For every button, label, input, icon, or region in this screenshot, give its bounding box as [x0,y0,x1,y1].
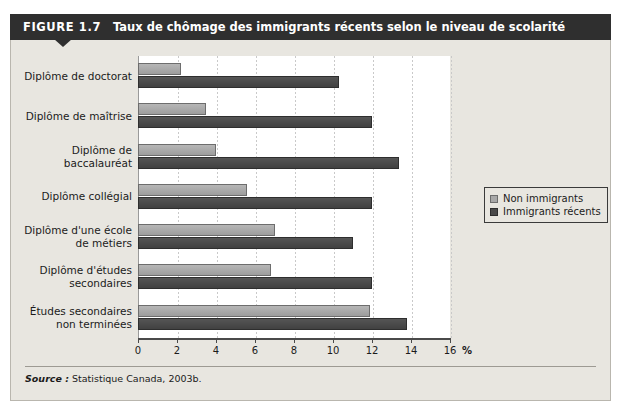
chart-row: Diplôme collégial [24,177,450,217]
bar-group [138,96,450,136]
bar-group [138,177,450,217]
legend-swatch-icon [490,195,498,203]
x-axis-tick [177,338,178,343]
x-axis-tick [255,338,256,343]
legend-swatch-icon [490,208,498,216]
chart-row: Diplôme d'études secondaires [24,257,450,297]
legend-item[interactable]: Non immigrants [490,192,601,205]
bar-group [138,257,450,297]
bar-immigrants-recents [138,157,399,169]
bar-non-immigrants [138,63,181,75]
x-axis-unit-label: % [462,345,472,356]
category-label: Diplôme de maîtrise [24,96,132,136]
bar-non-immigrants [138,264,271,276]
bar-non-immigrants [138,103,206,115]
x-axis-tick-label: 14 [405,345,418,356]
x-axis-tick [138,338,139,343]
category-label: Diplôme d'une école de métiers [24,217,132,257]
source-label: Source : [25,373,69,384]
chart-rows: Diplôme de doctoratDiplôme de maîtriseDi… [24,56,450,338]
chart-row: Diplôme de baccalauréat [24,137,450,177]
x-axis-tick-label: 4 [213,345,219,356]
x-axis-tick [294,338,295,343]
bar-non-immigrants [138,305,370,317]
bar-immigrants-recents [138,76,339,88]
x-axis-tick [333,338,334,343]
chart-row: Diplôme de doctorat [24,56,450,96]
bar-immigrants-recents [138,197,372,209]
x-axis-tick-label: 6 [252,345,258,356]
bar-immigrants-recents [138,237,353,249]
bar-immigrants-recents [138,277,372,289]
bar-group [138,298,450,338]
x-axis-tick-label: 0 [135,345,141,356]
source-note: Source : Statistique Canada, 2003b. [25,373,202,384]
x-axis-tick [450,338,451,343]
category-label: Diplôme collégial [24,177,132,217]
figure-page: FIGURE 1.7 Taux de chômage des immigrant… [0,0,621,415]
x-axis-tick-label: 2 [174,345,180,356]
figure-title: Taux de chômage des immigrants récents s… [113,20,565,34]
legend-label: Immigrants récents [503,205,601,218]
x-axis-tick-label: 12 [366,345,379,356]
bar-non-immigrants [138,184,247,196]
x-axis-tick [372,338,373,343]
legend-label: Non immigrants [503,192,583,205]
bar-group [138,137,450,177]
x-axis-tick-label: 16 [444,345,457,356]
bar-immigrants-recents [138,116,372,128]
bar-group [138,56,450,96]
legend-item[interactable]: Immigrants récents [490,205,601,218]
bar-non-immigrants [138,144,216,156]
bar-group [138,217,450,257]
category-label: Diplôme d'études secondaires [24,257,132,297]
x-axis-tick [411,338,412,343]
x-axis-tick-label: 10 [327,345,340,356]
chart-row: Diplôme de maîtrise [24,96,450,136]
x-axis-tick [216,338,217,343]
figure-title-bar: FIGURE 1.7 Taux de chômage des immigrant… [10,14,611,40]
category-label: Diplôme de baccalauréat [24,137,132,177]
x-axis-tick-label: 8 [291,345,297,356]
source-divider [25,366,596,367]
source-text: Statistique Canada, 2003b. [69,373,202,384]
gridline [451,56,452,338]
chart-row: Diplôme d'une école de métiers [24,217,450,257]
category-label: Études secondaires non terminées [24,298,132,338]
chart-legend: Non immigrantsImmigrants récents [484,187,608,223]
x-axis: 0246810121416 [138,338,450,340]
figure-number: FIGURE 1.7 [23,20,101,34]
chart-row: Études secondaires non terminées [24,298,450,338]
category-label: Diplôme de doctorat [24,56,132,96]
bar-non-immigrants [138,224,275,236]
bar-immigrants-recents [138,318,407,330]
